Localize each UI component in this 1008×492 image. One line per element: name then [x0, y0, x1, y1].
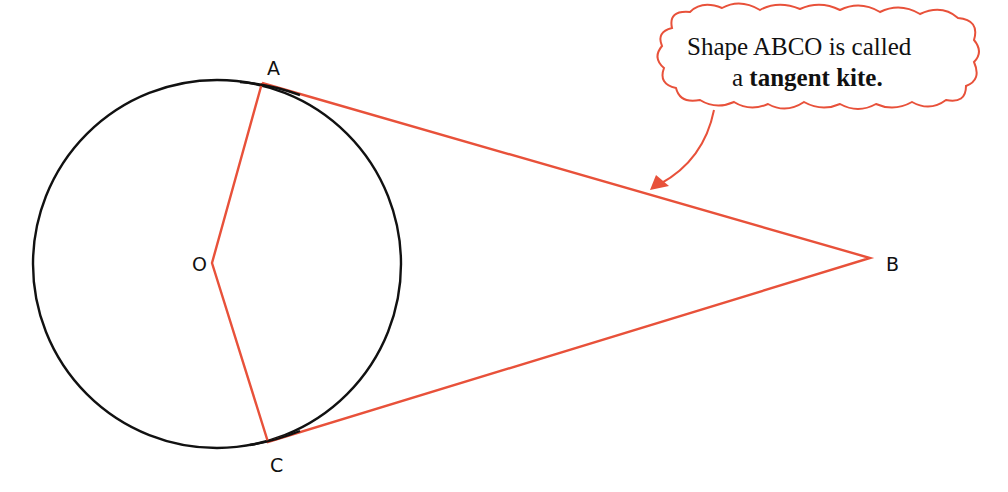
circle	[33, 80, 401, 448]
callout-arrow	[660, 110, 714, 184]
arrowhead-icon	[650, 175, 669, 190]
label-c: C	[270, 454, 283, 476]
callout-term: tangent kite	[749, 64, 876, 91]
tangent-kite-diagram: A B C O Shape ABCO is called a tangent k…	[0, 0, 1008, 492]
callout-line-2-prefix: a	[732, 64, 749, 91]
callout-line-2: a tangent kite.	[732, 64, 883, 91]
callout-line-2-suffix: .	[876, 64, 882, 91]
kite-shape-abco	[212, 83, 870, 442]
label-o: O	[192, 253, 207, 275]
callout-line-1: Shape ABCO is called	[687, 33, 912, 60]
label-a: A	[267, 57, 280, 79]
label-b: B	[886, 253, 899, 275]
